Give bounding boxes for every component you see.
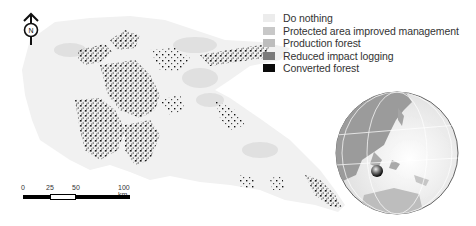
legend-item-do-nothing: Do nothing [263,12,459,25]
svg-text:N: N [28,27,33,34]
legend-swatch [263,39,275,47]
legend-item-reduced-impact-logging: Reduced impact logging [263,50,459,63]
scale-bar: 0 25 50 100 km [22,184,134,204]
legend-swatch [263,14,275,22]
legend-item-production-forest: Production forest [263,37,459,50]
legend-swatch [263,27,275,35]
globe-inset [334,90,460,216]
scale-tick-0: 0 [21,184,25,191]
scale-tick-25: 25 [46,184,54,191]
scale-segment-2 [50,194,76,200]
north-arrow: N N [18,10,44,46]
scale-segment-1 [23,195,50,199]
legend-item-protected-area: Protected area improved management [263,25,459,38]
north-arrow-icon: N [18,10,44,46]
legend-item-converted-forest: Converted forest [263,62,459,75]
scale-tick-50: 50 [72,184,80,191]
scale-segment-3 [76,195,130,199]
legend-swatch [263,52,275,60]
legend-swatch [263,64,275,72]
location-marker-icon [371,165,383,177]
map-legend: Do nothing Protected area improved manag… [263,12,459,75]
